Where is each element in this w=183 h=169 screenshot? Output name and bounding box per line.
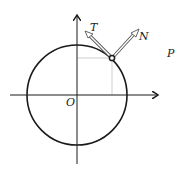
diagram-canvas: T N O P [0, 0, 183, 169]
tangent-vector [85, 31, 110, 56]
label-normal: N [138, 30, 149, 43]
normal-vector [114, 29, 139, 56]
projection-lines [77, 58, 112, 95]
label-point: P [166, 47, 175, 60]
label-origin: O [66, 96, 75, 109]
point-marker [109, 55, 114, 60]
label-tangent: T [90, 21, 99, 34]
